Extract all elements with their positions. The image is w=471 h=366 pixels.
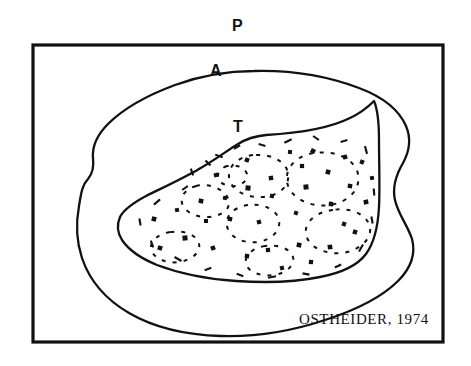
dash-tick-mark — [205, 268, 212, 270]
dash-tick-mark — [237, 274, 244, 276]
stipple-dot — [352, 229, 358, 235]
stipple-dot — [223, 196, 228, 201]
dash-tick-mark — [341, 140, 348, 142]
dash-tick-mark — [371, 217, 372, 224]
dash-tick-mark — [268, 276, 276, 277]
stipple-dot — [370, 176, 375, 181]
stipple-dot — [303, 184, 308, 189]
dash-tick-mark — [284, 139, 291, 142]
stipple-dot — [245, 254, 250, 259]
stipple-dot — [204, 219, 208, 223]
dash-tick-mark — [259, 144, 266, 146]
label-a: A — [210, 63, 222, 79]
stipple-dot — [325, 169, 330, 174]
stipple-dots — [151, 148, 374, 271]
dashed-cell-outline — [227, 205, 280, 243]
stipple-dot — [293, 210, 298, 215]
stipple-dot — [288, 150, 292, 154]
stipple-dot — [175, 208, 180, 213]
stipple-dot — [157, 245, 163, 251]
stipple-dot — [296, 242, 301, 247]
stipple-dot — [341, 221, 346, 226]
stipple-dot — [269, 176, 274, 181]
dash-tick-mark — [175, 257, 182, 261]
stipple-dot — [210, 245, 216, 251]
dash-tick-mark — [365, 146, 367, 154]
dash-tick-mark — [374, 189, 375, 196]
dashed-cell-outline — [229, 155, 288, 197]
stipple-dot — [227, 216, 232, 221]
stipple-dot — [300, 164, 304, 168]
dash-tick-marks — [139, 136, 374, 278]
dashed-cell-outlines — [151, 152, 370, 275]
attribution-caption: OSTHEIDER, 1974 — [299, 311, 429, 328]
dash-tick-mark — [303, 273, 310, 274]
stipple-dot — [214, 173, 219, 178]
dash-tick-mark — [335, 265, 341, 268]
dash-tick-mark — [313, 136, 319, 140]
stipple-dot — [327, 244, 332, 249]
stipple-dot — [359, 159, 364, 164]
figure-container: P A T OSTHEIDER, 1974 — [0, 0, 471, 366]
dash-tick-mark — [139, 219, 140, 226]
dashed-cell-outline — [287, 152, 359, 205]
stipple-dot — [266, 248, 270, 252]
stipple-dot — [280, 266, 285, 271]
stipple-dot — [244, 157, 250, 163]
stipple-dot — [151, 216, 157, 222]
label-t: T — [233, 119, 243, 135]
stipple-dot — [256, 219, 261, 224]
dashed-cell-outline — [218, 165, 247, 186]
stipple-dot — [245, 185, 250, 190]
stipple-dot — [309, 260, 314, 265]
stipple-dot — [198, 198, 203, 203]
dash-tick-mark — [359, 245, 363, 252]
stipple-dot — [329, 202, 334, 207]
stipple-dot — [348, 184, 353, 189]
stipple-dot — [182, 235, 187, 240]
stipple-dot — [342, 154, 348, 160]
dash-tick-mark — [182, 186, 188, 190]
label-p: P — [232, 18, 243, 34]
stipple-dot — [363, 199, 368, 204]
dashed-cell-outline — [182, 185, 229, 217]
dash-tick-mark — [154, 199, 160, 204]
region-p-frame — [33, 45, 443, 342]
